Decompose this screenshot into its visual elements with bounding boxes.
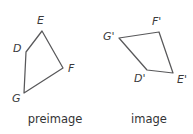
preimage-quadrilateral [24,31,63,93]
vertex-label-F-prime: F' [152,16,161,27]
geometry-figure: E F G D F' E' D' G' preimage image [0,0,193,134]
caption-image: image [120,114,178,126]
vertex-label-G-prime: G' [103,31,115,42]
image-quadrilateral [119,32,173,73]
vertex-label-D: D [13,43,21,54]
vertex-label-E-prime: E' [177,74,187,85]
caption-preimage: preimage [20,114,90,126]
vertex-label-D-prime: D' [134,73,146,84]
vertex-label-E: E [37,15,44,26]
vertex-label-F: F [68,63,74,74]
vertex-label-G: G [12,93,21,104]
